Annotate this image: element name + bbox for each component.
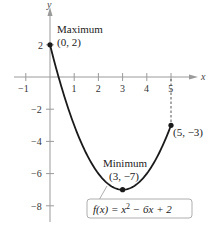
max-title: Maximum [57, 23, 103, 35]
min-coord: (3, −7) [109, 170, 139, 183]
svg-text:−1: −1 [18, 83, 29, 94]
x-tick-labels: −1 1 2 3 4 5 [18, 83, 173, 94]
svg-text:2: 2 [38, 40, 43, 51]
end-coord: (5, −3) [173, 126, 203, 139]
svg-text:−2: −2 [31, 104, 42, 115]
max-coord: (0, 2) [57, 36, 81, 49]
min-point [120, 187, 125, 192]
svg-text:−6: −6 [31, 168, 42, 179]
svg-text:1: 1 [72, 83, 77, 94]
chart: x y −1 1 2 3 4 5 2 −2 −4 −6 −8 [0, 0, 216, 233]
svg-text:−8: −8 [31, 201, 42, 212]
x-axis-label: x [200, 71, 206, 82]
y-axis-label: y [46, 0, 52, 10]
y-tick-labels: 2 −2 −4 −6 −8 [31, 40, 43, 212]
min-title: Minimum [103, 157, 147, 169]
svg-text:2: 2 [96, 83, 101, 94]
formula-label: f(x) = x2 − 6x + 2 [93, 202, 172, 216]
svg-text:4: 4 [144, 83, 149, 94]
svg-text:3: 3 [120, 83, 125, 94]
svg-text:−4: −4 [31, 136, 42, 147]
callout-pointer [99, 186, 107, 200]
max-point [47, 42, 52, 47]
x-axis-arrow-icon [189, 75, 198, 80]
